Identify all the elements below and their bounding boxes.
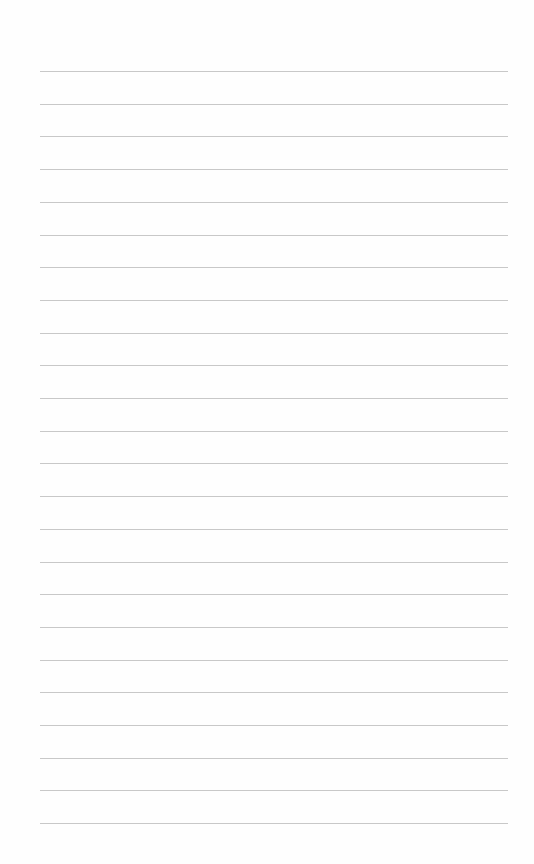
ruled-line (40, 202, 508, 203)
ruled-line (40, 758, 508, 759)
ruled-line (40, 594, 508, 595)
ruled-line (40, 692, 508, 693)
ruled-line (40, 790, 508, 791)
ruled-line (40, 529, 508, 530)
ruled-line (40, 431, 508, 432)
ruled-line (40, 169, 508, 170)
ruled-line (40, 300, 508, 301)
ruled-line (40, 333, 508, 334)
ruled-line (40, 235, 508, 236)
ruled-line (40, 562, 508, 563)
ruled-line (40, 136, 508, 137)
ruled-line (40, 463, 508, 464)
ruled-line (40, 267, 508, 268)
ruled-line (40, 365, 508, 366)
lined-paper-sheet (0, 0, 534, 864)
ruled-line (40, 71, 508, 72)
ruled-line (40, 660, 508, 661)
ruled-line (40, 496, 508, 497)
ruled-line (40, 104, 508, 105)
ruled-line (40, 627, 508, 628)
ruled-line (40, 398, 508, 399)
ruled-line (40, 823, 508, 824)
ruled-line (40, 725, 508, 726)
